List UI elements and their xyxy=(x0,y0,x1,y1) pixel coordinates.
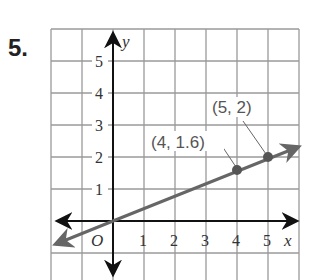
x-tick-1: 1 xyxy=(139,232,147,249)
data-point-4-1.6 xyxy=(232,165,242,175)
leader-line-5-2 xyxy=(243,121,266,154)
x-tick-3: 3 xyxy=(201,232,209,249)
x-tick-5: 5 xyxy=(263,232,271,249)
x-axis-label: x xyxy=(283,231,292,250)
coordinate-plane: y x O 5 4 3 2 1 1 2 3 4 5 (4, 1.6) (5, 2… xyxy=(0,0,319,280)
x-tick-4: 4 xyxy=(232,232,240,249)
y-tick-3: 3 xyxy=(95,117,103,134)
y-tick-4: 4 xyxy=(95,85,103,102)
origin-label: O xyxy=(91,231,103,250)
x-tick-2: 2 xyxy=(170,232,178,249)
point-label-5-2: (5, 2) xyxy=(212,98,252,117)
y-tick-2: 2 xyxy=(95,149,103,166)
y-tick-1: 1 xyxy=(95,181,103,198)
data-point-5-2 xyxy=(263,152,273,162)
point-label-4-1.6: (4, 1.6) xyxy=(151,133,205,152)
y-tick-5: 5 xyxy=(95,53,103,70)
data-line xyxy=(56,221,113,244)
y-axis-label: y xyxy=(120,32,130,51)
